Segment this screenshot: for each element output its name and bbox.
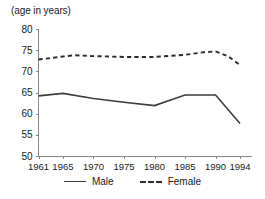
chart-legend: Male Female xyxy=(0,176,265,187)
legend-item-female: Female xyxy=(140,176,201,187)
x-axis-tick-label: 1970 xyxy=(83,161,104,172)
legend-swatch-solid-icon xyxy=(64,181,86,182)
y-axis-tick-label: 60 xyxy=(21,108,33,119)
y-axis-tick-group: 50556065707580 xyxy=(21,24,38,162)
x-axis-tick-label: 1965 xyxy=(52,161,73,172)
x-axis-tick-label: 1961 xyxy=(28,161,49,172)
x-axis-tick-label: 1980 xyxy=(144,161,165,172)
x-axis-tick-label: 1975 xyxy=(113,161,134,172)
legend-swatch-dashed-icon xyxy=(140,181,162,183)
series-line-female xyxy=(39,51,241,65)
y-axis-tick-label: 55 xyxy=(21,129,33,140)
x-axis-tick-group: 19611965197019751980198519901994 xyxy=(28,156,251,172)
y-axis-tick-label: 50 xyxy=(21,151,33,162)
x-axis-tick-label: 1994 xyxy=(229,161,250,172)
legend-item-male: Male xyxy=(64,176,114,187)
y-axis-tick-label: 65 xyxy=(21,87,33,98)
x-axis-tick-label: 1985 xyxy=(174,161,195,172)
y-axis-tick-label: 70 xyxy=(21,66,33,77)
y-axis-tick-label: 75 xyxy=(21,45,33,56)
series-line-male xyxy=(39,93,241,123)
x-axis-tick-label: 1990 xyxy=(205,161,226,172)
legend-label-female: Female xyxy=(168,176,201,187)
plot-area: 50556065707580 1961196519701975198019851… xyxy=(0,0,265,199)
y-axis-tick-label: 80 xyxy=(21,24,33,35)
legend-label-male: Male xyxy=(92,176,114,187)
line-chart: (age in years) 50556065707580 1961196519… xyxy=(0,0,265,199)
